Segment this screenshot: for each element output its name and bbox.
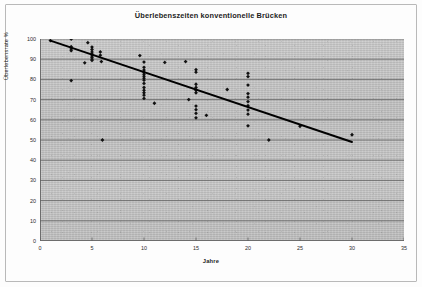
- x-axis-tick-labels: 05101520253035: [40, 245, 404, 255]
- data-point: [246, 95, 250, 99]
- data-point: [246, 83, 250, 87]
- data-point: [187, 98, 191, 102]
- data-point: [246, 112, 250, 116]
- x-tick-label: 20: [245, 245, 251, 251]
- data-point: [142, 78, 146, 82]
- data-point: [246, 100, 250, 104]
- data-point: [142, 82, 146, 86]
- regression-line: [50, 41, 352, 142]
- y-tick-label: 100: [27, 36, 36, 42]
- data-point: [184, 60, 188, 64]
- plot-area-wrapper: [40, 39, 404, 241]
- chart-figure: Überlebenszeiten konventionelle Brücken …: [0, 0, 422, 287]
- gridlines: [40, 39, 404, 241]
- data-point: [194, 70, 198, 74]
- data-point: [225, 88, 229, 92]
- data-point: [69, 39, 73, 41]
- y-tick-label: 90: [30, 56, 36, 62]
- data-point: [194, 104, 198, 108]
- x-tick-label: 15: [193, 245, 199, 251]
- x-tick-label: 5: [91, 245, 94, 251]
- chart-title: Überlebenszeiten konventionelle Brücken: [0, 11, 422, 20]
- trend-line: [50, 41, 352, 142]
- data-point: [246, 71, 250, 75]
- data-point: [194, 82, 198, 86]
- x-axis-label: Jahre: [0, 258, 422, 264]
- data-point: [246, 108, 250, 112]
- data-point: [153, 101, 157, 105]
- y-tick-label: 80: [30, 76, 36, 82]
- data-point: [86, 41, 90, 45]
- data-point: [142, 93, 146, 97]
- data-point: [194, 116, 198, 120]
- y-tick-label: 20: [30, 198, 36, 204]
- y-tick-label: 40: [30, 157, 36, 163]
- x-tick-label: 10: [141, 245, 147, 251]
- data-point: [138, 54, 142, 58]
- data-point: [83, 61, 87, 65]
- x-tick-label: 0: [39, 245, 42, 251]
- x-tick-label: 30: [349, 245, 355, 251]
- y-axis-tick-labels: 0102030405060708090100: [14, 39, 36, 241]
- data-point: [194, 108, 198, 112]
- data-point: [101, 138, 105, 142]
- data-point: [246, 124, 250, 128]
- data-point: [142, 60, 146, 64]
- data-point: [99, 60, 103, 64]
- x-tick-label: 25: [297, 245, 303, 251]
- data-point: [350, 133, 354, 137]
- y-tick-label: 60: [30, 117, 36, 123]
- data-point: [98, 50, 102, 54]
- data-point: [194, 111, 198, 115]
- data-point: [205, 113, 209, 117]
- y-tick-label: 10: [30, 218, 36, 224]
- y-axis-label: Überlebensrate %: [3, 6, 14, 106]
- data-point: [194, 91, 198, 95]
- y-tick-label: 50: [30, 137, 36, 143]
- y-tick-label: 70: [30, 97, 36, 103]
- data-point: [246, 75, 250, 79]
- y-tick-label: 30: [30, 177, 36, 183]
- y-tick-label: 0: [33, 238, 36, 244]
- plot-svg: [40, 39, 404, 241]
- data-point: [246, 92, 250, 96]
- x-tick-label: 35: [401, 245, 407, 251]
- data-point: [163, 61, 167, 65]
- data-point: [267, 138, 271, 142]
